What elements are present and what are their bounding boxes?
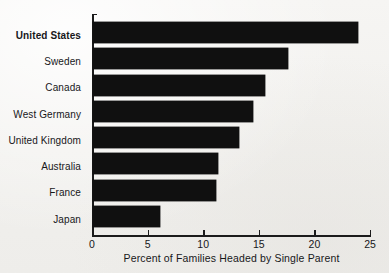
bar-australia	[93, 153, 218, 174]
x-tick-label-10: 10	[197, 238, 209, 250]
bar-japan	[93, 206, 160, 227]
category-label-united-kingdom: United Kingdom	[0, 127, 86, 153]
bar-france	[93, 180, 216, 201]
x-tick-label-0: 0	[89, 238, 95, 250]
bar-row	[93, 101, 371, 127]
bar-row	[93, 75, 371, 101]
bar-row	[93, 180, 371, 206]
category-axis-labels: United States Sweden Canada West Germany…	[0, 22, 86, 232]
x-tick-label-25: 25	[364, 238, 376, 250]
category-label-japan: Japan	[0, 206, 86, 232]
bar-row	[93, 153, 371, 179]
x-tick-label-5: 5	[145, 238, 151, 250]
y-axis-top-cap	[92, 14, 97, 15]
x-tick-20	[314, 230, 315, 236]
category-label-australia: Australia	[0, 153, 86, 179]
bar-united-kingdom	[93, 127, 239, 148]
x-tick-15	[259, 230, 260, 236]
bar-row	[93, 206, 371, 232]
category-label-france: France	[0, 180, 86, 206]
x-tick-label-20: 20	[309, 238, 321, 250]
bar-row	[93, 22, 371, 48]
bar-row	[93, 48, 371, 74]
x-tick-25	[370, 230, 371, 236]
x-tick-0	[92, 230, 93, 236]
bar-west-germany	[93, 101, 253, 122]
x-axis-line	[92, 235, 371, 237]
bar-sweden	[93, 48, 288, 69]
category-label-sweden: Sweden	[0, 48, 86, 74]
bar-row	[93, 127, 371, 153]
category-label-united-states: United States	[0, 22, 86, 48]
category-label-canada: Canada	[0, 75, 86, 101]
x-tick-10	[203, 230, 204, 236]
bar-series	[93, 22, 371, 232]
x-tick-label-15: 15	[253, 238, 265, 250]
bar-united-states	[93, 22, 358, 43]
category-label-west-germany: West Germany	[0, 101, 86, 127]
x-tick-5	[148, 230, 149, 236]
bar-chart: United States Sweden Canada West Germany…	[0, 0, 389, 273]
bar-canada	[93, 75, 265, 96]
x-axis-title: Percent of Families Headed by Single Par…	[92, 252, 371, 264]
